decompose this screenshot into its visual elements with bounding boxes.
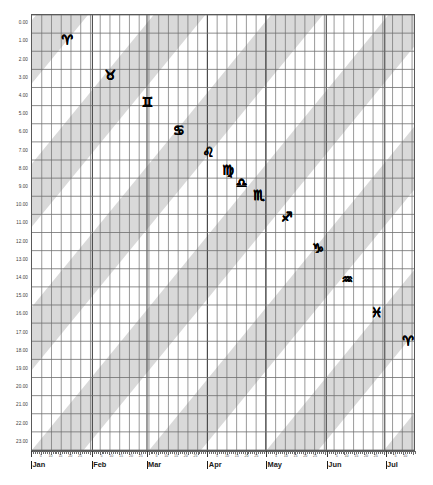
day-tick — [233, 451, 234, 454]
zodiac-glyph-aries: ♈ — [61, 34, 73, 47]
y-tick-label: 22.00 — [16, 421, 28, 426]
day-tick — [262, 451, 263, 454]
x-day-number: 15 — [58, 455, 62, 459]
y-tick-label: 12.00 — [16, 239, 28, 244]
day-tick — [409, 451, 410, 454]
day-tick — [74, 451, 75, 454]
x-day-number: 5 — [40, 455, 42, 459]
month-label-mar: Mar — [147, 460, 162, 469]
day-tick — [105, 451, 106, 454]
day-tick — [221, 451, 222, 454]
month-label-may: May — [266, 460, 282, 469]
day-tick — [64, 451, 65, 454]
day-tick — [168, 451, 169, 455]
month-label-feb: Feb — [92, 460, 107, 469]
month-label-jun: Jun — [327, 460, 342, 469]
day-tick — [72, 451, 73, 454]
day-tick — [325, 451, 326, 455]
day-tick — [368, 451, 369, 454]
day-tick — [401, 451, 402, 454]
day-tick — [299, 451, 300, 454]
zodiac-glyph-aries: ♈ — [402, 334, 414, 347]
day-tick — [372, 451, 373, 454]
day-tick — [341, 451, 342, 454]
y-tick-label: 4.00 — [19, 94, 28, 99]
day-tick — [384, 451, 385, 455]
day-tick — [290, 451, 291, 454]
day-tick — [199, 451, 200, 454]
day-tick — [301, 451, 302, 454]
y-tick-label: 6.00 — [19, 130, 28, 135]
day-tick — [415, 451, 416, 454]
month-tick — [31, 451, 32, 457]
y-tick-label: 5.00 — [19, 112, 28, 117]
day-tick — [45, 451, 46, 454]
day-tick — [170, 451, 171, 454]
day-tick — [211, 451, 212, 454]
day-tick — [362, 451, 363, 454]
y-tick-label: 16.00 — [16, 312, 28, 317]
day-tick — [252, 451, 253, 454]
y-tick-label: 9.00 — [19, 185, 28, 190]
y-tick-label: 18.00 — [16, 349, 28, 354]
day-tick — [382, 451, 383, 454]
day-tick — [264, 451, 265, 454]
x-day-number: 20 — [303, 455, 307, 459]
y-tick-label: 13.00 — [16, 258, 28, 263]
day-tick — [76, 451, 77, 454]
x-day-number: 10 — [49, 455, 53, 459]
day-tick — [343, 451, 344, 454]
day-tick — [201, 451, 202, 454]
day-tick — [333, 451, 334, 454]
zodiac-glyph-virgo: ♍ — [222, 163, 234, 176]
day-tick — [133, 451, 134, 454]
day-tick — [152, 451, 153, 454]
zodiac-glyph-libra: ♎ — [236, 176, 248, 189]
day-tick — [55, 451, 56, 454]
day-tick — [407, 451, 408, 454]
day-tick — [53, 451, 54, 454]
x-day-number: 15 — [354, 455, 358, 459]
day-tick — [43, 451, 44, 454]
day-tick — [241, 451, 242, 454]
zodiac-glyph-layer: ♈♉♊♋♌♍♎♏♐♑♒♓♈♉♊♋♌♍ — [32, 15, 414, 450]
day-tick — [88, 451, 89, 454]
day-tick — [311, 451, 312, 454]
day-tick — [292, 451, 293, 454]
x-day-number: 5 — [101, 455, 103, 459]
y-tick-label: 8.00 — [19, 166, 28, 171]
x-day-number: 15 — [174, 455, 178, 459]
day-tick — [411, 451, 412, 454]
day-tick — [360, 451, 361, 454]
day-tick — [260, 451, 261, 454]
y-tick-label: 11.00 — [16, 221, 28, 226]
day-tick — [350, 451, 351, 454]
x-day-number: 5 — [275, 455, 277, 459]
x-day-number: 5 — [336, 455, 338, 459]
day-tick — [243, 451, 244, 454]
y-tick-label: 23.00 — [16, 440, 28, 445]
day-tick — [198, 451, 199, 455]
y-tick-label: 15.00 — [16, 294, 28, 299]
day-tick — [151, 451, 152, 454]
day-tick — [352, 451, 353, 454]
day-tick — [248, 451, 249, 454]
day-tick — [391, 451, 392, 454]
day-tick — [309, 451, 310, 454]
day-tick — [378, 451, 379, 454]
day-tick — [188, 451, 189, 455]
day-tick — [96, 451, 97, 454]
day-tick — [56, 451, 57, 454]
zodiac-glyph-taurus: ♉ — [105, 69, 117, 82]
zodiac-glyph-gemini: ♊ — [142, 96, 154, 109]
day-tick — [113, 451, 114, 454]
day-tick — [84, 451, 85, 454]
day-tick — [388, 451, 389, 454]
day-tick — [268, 451, 269, 454]
x-day-number: 10 — [284, 455, 288, 459]
zodiac-glyph-sagittarius: ♐ — [281, 211, 293, 224]
y-tick-label: 0.00 — [19, 21, 28, 26]
x-day-number: 20 — [184, 455, 188, 459]
day-tick — [219, 451, 220, 454]
day-tick — [158, 451, 159, 455]
